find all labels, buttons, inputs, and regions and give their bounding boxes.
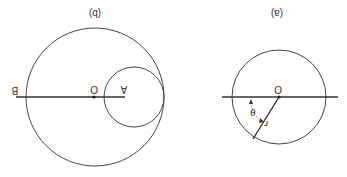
label-a-end: A bbox=[120, 84, 127, 95]
label-theta: θ bbox=[250, 107, 256, 119]
caption-b: (b) bbox=[89, 8, 101, 19]
label-o-center: O bbox=[274, 84, 282, 95]
panel-b: (b) B O A bbox=[11, 8, 164, 166]
caption-a: (a) bbox=[271, 8, 283, 19]
physics-diagram: (b) B O A (a) O θ r bbox=[0, 0, 347, 177]
label-radius-r: r bbox=[263, 119, 268, 131]
label-b-end: B bbox=[11, 85, 18, 96]
label-o-center: O bbox=[90, 84, 98, 95]
panel-a: (a) O θ r bbox=[222, 8, 338, 144]
radius-line bbox=[253, 97, 279, 139]
angle-arrowhead-top bbox=[249, 99, 253, 104]
